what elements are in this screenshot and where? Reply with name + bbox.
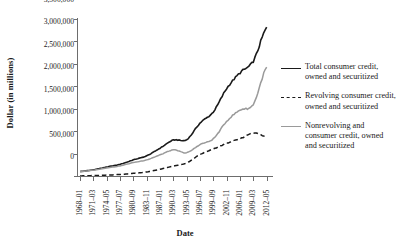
x-tick-label: 1993–05: [180, 182, 194, 222]
legend-label: Revolving consumer credit, owned and sec…: [305, 91, 397, 111]
chart-legend: Total consumer credit, owned and securit…: [281, 62, 397, 160]
plot-area: [78, 19, 272, 176]
x-tick-label: 1983–11: [140, 182, 154, 222]
x-tick-label-text: 1971–03: [90, 190, 97, 216]
y-tick-label: 1,000,000: [18, 108, 74, 116]
legend-item[interactable]: Nonrevolving and consumer credit, owned …: [281, 121, 397, 152]
x-tick-label-text: 1996–07: [196, 190, 203, 216]
legend-item[interactable]: Revolving consumer credit, owned and sec…: [281, 91, 397, 111]
x-tick-label: 2012–05: [260, 182, 274, 222]
y-tick-mark: [74, 41, 78, 42]
x-tick-label: 1977–07: [113, 182, 127, 222]
x-tick-mark: [200, 177, 201, 181]
x-tick-label-text: 1990–03: [170, 190, 177, 216]
x-tick-mark: [213, 177, 214, 181]
y-tick-label: 2,000,000: [18, 63, 74, 71]
y-axis-title: Dollar (in millions): [2, 0, 18, 186]
y-tick-label: 3,500,000: [18, 0, 74, 4]
x-tick-mark: [147, 177, 148, 181]
x-axis-title: Date: [125, 228, 245, 238]
x-tick-label-text: 2006–01: [236, 190, 243, 216]
x-tick-label: 2006–01: [233, 182, 247, 222]
series-line: [80, 67, 267, 171]
x-tick-label-text: 1974–05: [103, 190, 110, 216]
x-tick-label: 2002–11: [220, 182, 234, 222]
x-tick-label: 2009–03: [246, 182, 260, 222]
y-tick-mark: [74, 64, 78, 65]
x-tick-mark: [267, 177, 268, 181]
series-lines: [78, 19, 272, 176]
legend-line-swatch: [281, 97, 301, 98]
x-tick-mark: [80, 177, 81, 181]
x-tick-mark: [120, 177, 121, 181]
x-tick-label: 1980–09: [126, 182, 140, 222]
x-tick-mark: [160, 177, 161, 181]
x-tick-label-text: 1999–09: [210, 190, 217, 216]
x-tick-mark: [93, 177, 94, 181]
x-tick-label-text: 2009–03: [250, 190, 257, 216]
x-tick-mark: [253, 177, 254, 181]
x-tick-label-text: 1980–09: [130, 190, 137, 216]
y-tick-mark: [74, 86, 78, 87]
legend-line-swatch: [281, 126, 301, 127]
x-tick-label: 1971–03: [86, 182, 100, 222]
legend-item[interactable]: Total consumer credit, owned and securit…: [281, 62, 397, 82]
x-tick-mark: [187, 177, 188, 181]
x-axis-tick-labels: 1968–011971–031974–051977–071980–091983–…: [78, 182, 274, 222]
y-tick-mark: [74, 176, 78, 177]
x-tick-mark: [173, 177, 174, 181]
x-tick-label: 1968–01: [73, 182, 87, 222]
x-tick-label-text: 1993–05: [183, 190, 190, 216]
x-tick-mark: [240, 177, 241, 181]
y-tick-mark: [74, 109, 78, 110]
x-tick-label: 1999–09: [206, 182, 220, 222]
legend-label: Total consumer credit, owned and securit…: [305, 62, 397, 82]
x-tick-label: 1974–05: [100, 182, 114, 222]
x-tick-label-text: 1968–01: [76, 190, 83, 216]
legend-label: Nonrevolving and consumer credit, owned …: [305, 121, 397, 152]
y-tick-label: 2,500,000: [18, 41, 74, 49]
x-tick-mark: [227, 177, 228, 181]
x-tick-label: 1996–07: [193, 182, 207, 222]
y-tick-mark: [74, 154, 78, 155]
x-tick-mark: [133, 177, 134, 181]
y-tick-mark: [74, 19, 78, 20]
y-tick-label: 500,000: [18, 131, 74, 139]
x-tick-label-text: 2002–11: [223, 190, 230, 216]
x-tick-label-text: 1987–01: [156, 190, 163, 216]
y-tick-label: 0: [18, 153, 74, 161]
y-tick-mark: [74, 131, 78, 132]
x-tick-mark: [107, 177, 108, 181]
y-tick-label: 3,000,000: [18, 19, 74, 27]
x-tick-label: 1990–03: [166, 182, 180, 222]
x-tick-label-text: 1977–07: [116, 190, 123, 216]
legend-line-swatch: [281, 68, 301, 69]
y-tick-label: 1,500,000: [18, 86, 74, 94]
y-axis-tick-labels: 3,500,0003,000,0002,500,0002,000,0001,50…: [18, 0, 74, 186]
x-tick-label-text: 1983–11: [143, 190, 150, 216]
chart-figure: Dollar (in millions) 3,500,0003,000,0002…: [0, 0, 397, 247]
x-tick-label: 1987–01: [153, 182, 167, 222]
x-tick-label-text: 2012–05: [263, 190, 270, 216]
